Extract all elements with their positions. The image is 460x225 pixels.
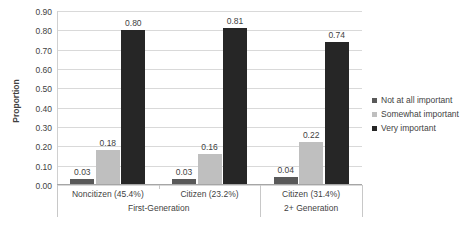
y-axis-tick-label: 0.20 <box>0 142 52 152</box>
category-group-label: First-Generation <box>57 203 260 213</box>
y-axis-line <box>57 11 58 185</box>
gridline <box>57 127 362 128</box>
bar-value-label: 0.81 <box>215 17 255 26</box>
bar-value-label: 0.04 <box>266 166 306 175</box>
category-label: Citizen (31.4%) <box>260 189 362 199</box>
bar-value-label: 0.22 <box>291 131 331 140</box>
gridline <box>57 11 362 12</box>
bar-chart: Proportion 0.000.100.200.300.400.500.600… <box>0 0 460 225</box>
y-axis-tick-label: 0.60 <box>0 65 52 75</box>
bar-value-label: 0.03 <box>62 168 102 177</box>
category-group-separator <box>57 185 58 217</box>
category-label: Citizen (23.2%) <box>159 189 261 199</box>
gridline <box>57 50 362 51</box>
category-label: Noncitizen (45.4%) <box>57 189 159 199</box>
y-axis-tick-label: 0.00 <box>0 181 52 191</box>
legend-item: Not at all important <box>372 93 460 107</box>
legend-label: Very important <box>381 124 436 133</box>
legend-item: Very important <box>372 121 460 135</box>
y-axis-tick-label: 0.10 <box>0 162 52 172</box>
legend: Not at all importantSomewhat importantVe… <box>372 93 460 135</box>
bar-value-label: 0.03 <box>164 168 204 177</box>
gridline <box>57 88 362 89</box>
legend-label: Somewhat important <box>381 110 459 119</box>
bar-value-label: 0.18 <box>88 139 128 148</box>
category-group-separator <box>362 185 363 217</box>
y-axis-tick-label: 0.70 <box>0 46 52 56</box>
legend-label: Not at all important <box>381 96 452 105</box>
gridline <box>57 108 362 109</box>
bar <box>299 142 323 185</box>
y-axis-tick-label: 0.50 <box>0 84 52 94</box>
bar <box>325 42 349 185</box>
bar-value-label: 0.80 <box>113 19 153 28</box>
gridline <box>57 185 362 186</box>
bar <box>223 28 247 185</box>
bar <box>121 30 145 185</box>
bar-value-label: 0.16 <box>190 143 230 152</box>
category-group-separator <box>260 185 261 217</box>
y-axis-tick-label: 0.80 <box>0 26 52 36</box>
legend-swatch-icon <box>372 126 377 131</box>
y-axis-tick-label: 0.30 <box>0 123 52 133</box>
gridline <box>57 69 362 70</box>
axis-tick-mark <box>159 185 160 189</box>
bar-value-label: 0.74 <box>317 31 357 40</box>
category-group-label: 2+ Generation <box>260 203 362 213</box>
legend-swatch-icon <box>372 98 377 103</box>
y-axis-tick-label: 0.90 <box>0 7 52 17</box>
legend-swatch-icon <box>372 112 377 117</box>
x-axis-line <box>57 184 362 185</box>
legend-item: Somewhat important <box>372 107 460 121</box>
y-axis-tick-label: 0.40 <box>0 104 52 114</box>
